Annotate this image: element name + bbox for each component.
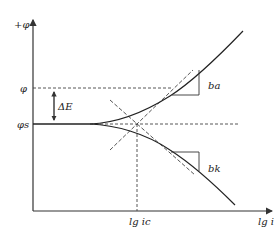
delta-e-label: ΔE bbox=[57, 101, 73, 112]
y-axis-label: +φ bbox=[14, 19, 29, 30]
anodic-tafel-asymptote bbox=[110, 70, 193, 150]
bk-label: bk bbox=[208, 163, 220, 174]
phi-label: φ bbox=[20, 83, 27, 94]
anodic-curve bbox=[90, 31, 243, 124]
cathodic-tafel-asymptote bbox=[110, 100, 195, 175]
phi-s-label: φs bbox=[17, 119, 29, 130]
lg-ic-label: lg ic bbox=[129, 216, 151, 227]
polarization-diagram: +φ φ φs ΔE ba bk lg ic lg i bbox=[0, 0, 278, 238]
ba-label: ba bbox=[208, 80, 220, 91]
x-axis-label: lg i bbox=[258, 216, 274, 227]
